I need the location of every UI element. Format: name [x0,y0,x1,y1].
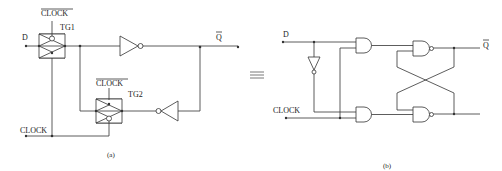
caption-b: (b) [383,162,392,170]
inverter-icon [308,57,320,74]
tg1-label: TG1 [60,23,75,32]
clock-input-label: CLOCK [20,126,47,135]
d-input-label: D [283,30,289,39]
panel-a: D CLOCK TG1 [20,9,239,159]
and-gate-2-icon [356,107,372,122]
nand-bubble [430,113,434,117]
panel-b: D CLOCK Q [273,30,489,170]
transmission-gate-tg2-icon [95,99,123,123]
transmission-gate-tg1-icon [38,34,66,58]
cross-coupled-feedback [397,48,454,114]
clock-input-label: CLOCK [273,106,300,115]
caption-a: (a) [107,151,115,159]
equivalence-symbol [250,72,264,78]
nand-bubble [430,47,434,51]
nand-gate-2-icon [413,107,430,122]
q-bar-output-label: Q [216,33,222,42]
inverter-1-icon [120,36,143,56]
q-bar-output-label: Q [483,41,489,50]
tg1-clock-bar-label: CLOCK [41,9,68,18]
q-output-terminal [237,46,239,48]
circuit-diagram: D CLOCK TG1 [0,0,502,171]
and-gate-1-icon [356,38,372,53]
tg2-label: TG2 [128,90,143,99]
d-input-label: D [22,33,28,42]
nand-gate-1-icon [413,41,430,56]
inverter-2-icon [156,101,178,121]
tg2-clock-bar-label: CLOCK [96,79,123,88]
